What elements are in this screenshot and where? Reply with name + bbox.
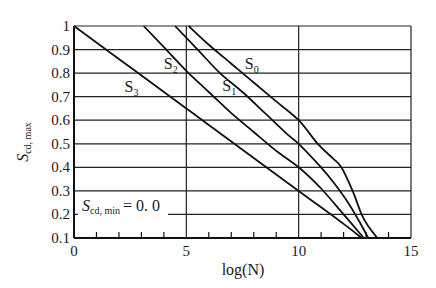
y-tick-label: 0.1 — [51, 230, 70, 246]
y-tick-label: 0.5 — [51, 136, 70, 152]
x-tick-label: 15 — [404, 243, 419, 259]
curve-label-s0: S0 — [245, 55, 259, 75]
chart: 0.10.20.30.40.50.60.70.80.91 051015 S0S1… — [0, 0, 436, 288]
y-tick-label: 0.8 — [51, 65, 70, 81]
curve-label-s3: S3 — [125, 78, 139, 98]
y-tick-label: 0.2 — [51, 206, 70, 222]
x-tick-label: 10 — [291, 243, 306, 259]
y-axis-title: Scd, max — [14, 122, 33, 162]
svg-text:Scd, max: Scd, max — [14, 122, 33, 162]
y-tick-label: 0.4 — [51, 159, 70, 175]
curve-s1 — [175, 26, 368, 238]
y-tick-label: 0.7 — [51, 89, 70, 105]
x-tick-label: 5 — [183, 243, 191, 259]
x-tick-label: 0 — [70, 243, 78, 259]
y-tick-label: 1 — [63, 18, 71, 34]
y-tick-labels: 0.10.20.30.40.50.60.70.80.91 — [51, 18, 70, 246]
curve-s2 — [144, 26, 364, 238]
x-axis-title: log(N) — [222, 261, 265, 279]
curve-label-s2: S2 — [164, 55, 178, 75]
curve-s0 — [189, 26, 378, 238]
y-tick-label: 0.3 — [51, 183, 70, 199]
x-tick-labels: 051015 — [70, 243, 418, 259]
y-tick-label: 0.9 — [51, 42, 70, 58]
curve-label-s1: S1 — [222, 77, 236, 97]
y-tick-label: 0.6 — [51, 112, 70, 128]
